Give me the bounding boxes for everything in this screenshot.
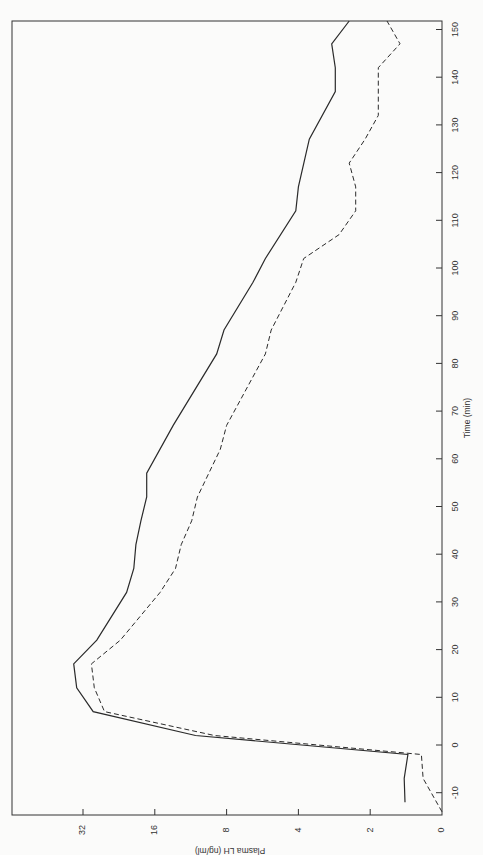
lh-tick-label: 32 [77,825,87,835]
time-tick-label: 30 [450,597,460,607]
time-tick-label: 50 [450,501,460,511]
x-axis-title: Time (min) [462,398,472,438]
chart: -100102030405060708090100110120130140150… [0,0,483,855]
y-axis-title: Plasma LH (ng/ml) [195,846,266,855]
time-tick-label: 120 [450,165,460,180]
plot-frame [12,21,442,815]
time-tick-label: 100 [450,260,460,275]
lh-tick-label: 0 [436,827,446,832]
time-tick-label: 140 [450,70,460,85]
time-tick-label: 0 [450,742,460,747]
time-tick-label: 60 [450,454,460,464]
time-tick-label: 80 [450,358,460,368]
time-axis-ticks: -100102030405060708090100110120130140150 [436,22,460,799]
time-tick-label: 150 [450,22,460,37]
time-tick-label: -10 [450,786,460,799]
series-solid-line [74,21,408,802]
lh-axis-ticks: 02481632 [77,809,446,835]
lh-tick-label: 8 [221,827,231,832]
time-tick-label: 130 [450,117,460,132]
time-tick-label: 40 [450,549,460,559]
time-tick-label: 10 [450,692,460,702]
time-tick-label: 110 [450,213,460,227]
data-series [74,21,442,812]
time-tick-label: 90 [450,311,460,321]
series-dashed-line [91,21,442,812]
lh-tick-label: 2 [365,827,375,832]
time-tick-label: 70 [450,406,460,416]
lh-tick-label: 16 [149,825,159,835]
lh-tick-label: 4 [293,827,303,832]
time-tick-label: 20 [450,645,460,655]
